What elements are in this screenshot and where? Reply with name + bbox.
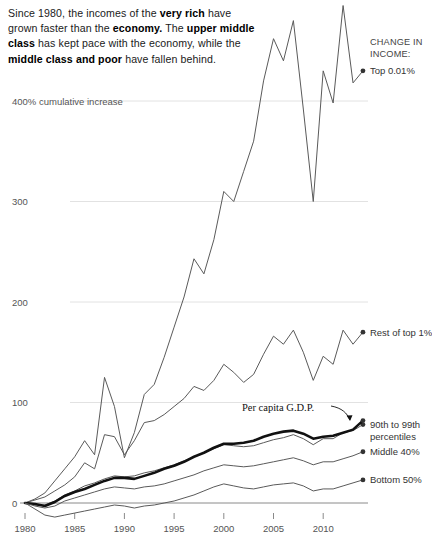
y-tick-label-0: 0	[12, 498, 17, 509]
series-label-rest-of-top-1: Rest of top 1%	[370, 327, 432, 338]
series-endpoint-dot-5	[361, 477, 366, 482]
y-tick-label-200: 200	[12, 297, 28, 308]
series-label-90th-to-99th-percentiles: 90th to 99th	[370, 419, 420, 430]
series-line-middle-40	[25, 452, 363, 508]
y-tick-label-400: 400% cumulative increase	[12, 96, 123, 107]
series-line-bottom-50	[25, 480, 363, 517]
x-tick-label-2000: 2000	[213, 523, 234, 534]
series-line-rest-of-top-1	[25, 330, 363, 503]
kicker-line-2: INCOME:	[370, 49, 411, 59]
series-endpoint-dot-0	[361, 68, 366, 73]
series-endpoint-dot-1	[361, 330, 366, 335]
x-tick-label-1985: 1985	[64, 523, 85, 534]
series-line-top-0-01	[25, 6, 363, 503]
annotation-arrowhead	[347, 415, 353, 421]
series-label-top-0-01: Top 0.01%	[370, 65, 415, 76]
series-endpoint-dot-3	[361, 418, 366, 423]
chart-svg: 0100200300400% cumulative increase198019…	[0, 0, 432, 543]
y-tick-label-300: 300	[12, 196, 28, 207]
x-tick-label-1990: 1990	[114, 523, 135, 534]
x-tick-label-1980: 1980	[14, 523, 35, 534]
y-tick-label-100: 100	[12, 397, 28, 408]
series-line-per-capita-g-d-p	[25, 421, 363, 506]
series-label-bottom-50: Bottom 50%	[370, 474, 422, 485]
per-capita-gdp-annotation: Per capita G.D.P.	[242, 402, 314, 413]
x-tick-label-2005: 2005	[263, 523, 284, 534]
annotation-arrow	[331, 406, 350, 420]
series-label-middle-40: Middle 40%	[370, 446, 420, 457]
income-growth-chart: 0100200300400% cumulative increase198019…	[0, 0, 432, 543]
x-tick-label-1995: 1995	[164, 523, 185, 534]
series-endpoint-dot-4	[361, 449, 366, 454]
kicker-line-1: CHANGE IN	[370, 37, 423, 47]
x-tick-label-2010: 2010	[313, 523, 334, 534]
series-label-90th-to-99th-percentiles: percentiles	[370, 431, 416, 442]
